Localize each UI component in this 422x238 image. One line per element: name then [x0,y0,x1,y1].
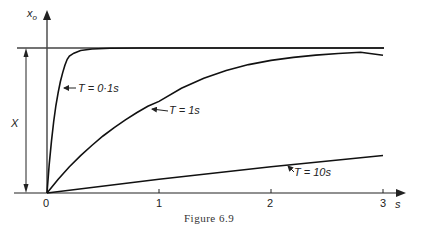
curve-label-t-0-1s: T = 0·1s [78,82,119,94]
x-tick-label-2: 2 [267,197,273,209]
step-response-chart: xo s 0 1 2 3 X T = 0·1s T = 1s T = 10s F… [0,0,422,238]
annotation-arrow-mid [152,109,168,111]
amplitude-arrow-up-icon [24,48,29,57]
x-tick-label-0: 0 [43,197,49,209]
curve-t-0-1s [47,48,384,193]
curve-t-10s [47,156,383,194]
x-tick-label-3: 3 [380,197,386,209]
x-axis-arrow-icon [396,189,406,197]
y-axis-label: xo [26,7,38,22]
curve-t-1s [47,52,383,193]
amplitude-arrow-down-icon [24,184,29,193]
figure-caption: Figure 6.9 [184,212,234,224]
amplitude-label: X [10,117,19,129]
curve-label-t-10s: T = 10s [294,166,331,178]
y-axis-arrow-icon [43,10,51,20]
curve-label-t-1s: T = 1s [169,104,200,116]
x-tick-label-1: 1 [156,197,162,209]
x-axis-label: s [395,198,401,210]
